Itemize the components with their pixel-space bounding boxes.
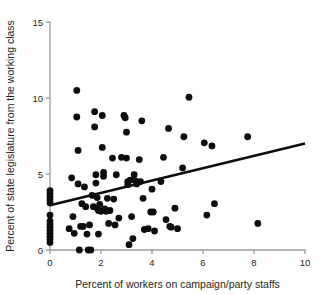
scatter-plot-figure: 0510150246810 Percent of workers on camp…: [0, 0, 320, 295]
data-point: [93, 180, 100, 187]
data-point: [113, 171, 120, 178]
data-point: [81, 184, 88, 191]
data-point: [140, 195, 147, 202]
chart-background: [0, 0, 320, 295]
data-point: [168, 224, 175, 231]
data-point: [73, 114, 80, 121]
y-tick-label: 10: [32, 93, 43, 104]
data-point: [47, 187, 54, 194]
data-point: [87, 247, 94, 254]
x-tick-label: 10: [300, 257, 311, 268]
x-axis-title: Percent of workers on campaign/party sta…: [75, 278, 280, 290]
data-point: [112, 222, 119, 229]
data-point: [84, 231, 91, 238]
y-tick-label: 0: [38, 245, 43, 256]
data-point: [138, 117, 145, 124]
data-point: [254, 220, 261, 227]
data-point: [211, 200, 218, 207]
y-axis-title: Percent of state legislature from the wo…: [4, 20, 16, 252]
data-point: [131, 171, 138, 178]
x-tick-label: 4: [149, 257, 154, 268]
data-point: [136, 156, 143, 163]
data-point: [68, 174, 75, 181]
x-tick-label: 0: [47, 257, 52, 268]
data-point: [99, 144, 106, 151]
data-point: [145, 225, 152, 232]
data-point: [86, 222, 93, 229]
data-point: [186, 94, 193, 101]
data-point: [244, 133, 251, 140]
data-point: [123, 129, 130, 136]
data-point: [73, 87, 80, 94]
data-point: [107, 207, 114, 214]
data-point: [99, 112, 106, 119]
data-point: [115, 215, 122, 222]
data-point: [150, 209, 157, 216]
data-point: [104, 195, 111, 202]
data-point: [165, 125, 172, 132]
data-point: [110, 196, 117, 203]
data-point: [66, 225, 73, 232]
data-point: [179, 165, 186, 172]
data-point: [160, 154, 167, 161]
y-tick-label: 5: [38, 169, 43, 180]
data-point: [91, 108, 98, 115]
data-point: [47, 212, 54, 219]
data-point: [82, 203, 89, 210]
data-point: [70, 213, 77, 220]
y-tick-label: 15: [32, 17, 43, 28]
data-point: [76, 247, 83, 254]
data-point: [95, 231, 102, 238]
data-point: [75, 180, 82, 187]
data-point: [105, 220, 112, 227]
data-point: [71, 230, 78, 237]
data-point: [163, 216, 170, 223]
data-point: [172, 205, 179, 212]
x-tick-label: 6: [200, 257, 205, 268]
x-tick-label: 8: [251, 257, 256, 268]
data-point: [100, 173, 107, 180]
data-point: [129, 235, 136, 242]
data-point: [96, 201, 103, 208]
data-point: [122, 114, 129, 121]
data-point: [201, 139, 208, 146]
data-point: [209, 142, 216, 149]
data-point: [91, 123, 98, 130]
data-point: [174, 225, 181, 232]
chart-canvas: 0510150246810 Percent of workers on camp…: [0, 0, 320, 295]
data-point: [47, 218, 54, 225]
data-point: [180, 133, 187, 140]
data-point: [128, 213, 135, 220]
data-point: [149, 186, 156, 193]
data-point: [93, 171, 100, 178]
data-point: [123, 155, 130, 162]
data-point: [126, 241, 133, 248]
x-tick-label: 2: [98, 257, 103, 268]
data-point: [80, 223, 87, 230]
data-point: [109, 155, 116, 162]
data-point: [75, 147, 82, 154]
data-point: [203, 212, 210, 219]
data-point: [151, 228, 158, 235]
